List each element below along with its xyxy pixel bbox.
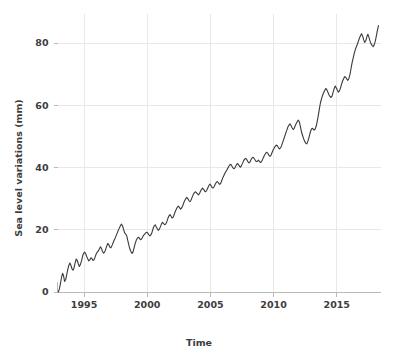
x-tick-labels-group: 19952000200520102015	[71, 299, 350, 310]
sea-level-chart-figure: 020406080 19952000200520102015 Time Sea …	[0, 0, 398, 360]
x-axis-title: Time	[186, 337, 212, 348]
y-tick-label-40: 40	[35, 162, 49, 173]
y-tick-label-0: 0	[42, 286, 49, 297]
x-tick-label-2005: 2005	[197, 299, 223, 310]
x-tick-label-1995: 1995	[71, 299, 97, 310]
x-tick-label-2000: 2000	[134, 299, 161, 310]
x-tick-label-2015: 2015	[324, 299, 350, 310]
y-tick-label-60: 60	[35, 100, 49, 111]
x-tick-label-2010: 2010	[260, 299, 287, 310]
tick-marks-group	[54, 43, 337, 297]
y-tick-label-20: 20	[35, 224, 49, 235]
data-line-0	[58, 26, 378, 292]
y-tick-label-80: 80	[35, 37, 49, 48]
axes-group	[58, 282, 382, 292]
y-axis-title: Sea level variations (mm)	[13, 99, 24, 236]
chart-plot-area: 020406080 19952000200520102015 Time Sea …	[0, 0, 398, 360]
y-tick-labels-group: 020406080	[35, 37, 49, 297]
data-series-group	[58, 26, 378, 292]
gridlines-group	[58, 14, 382, 292]
